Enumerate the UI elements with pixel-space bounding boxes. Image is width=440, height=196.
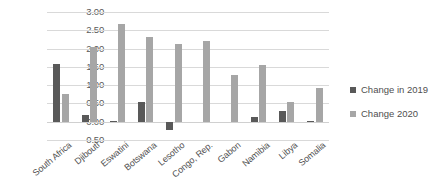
x-axis-category-label: South Africa <box>31 140 74 178</box>
bar <box>118 24 125 122</box>
legend-item-label: Change in 2019 <box>361 84 428 95</box>
bar-chart: -0.500.000.501.001.502.002.503.00 South … <box>0 0 440 196</box>
bar <box>146 37 153 122</box>
bar <box>307 121 314 122</box>
bar-group <box>47 12 75 140</box>
bar <box>251 117 258 122</box>
legend-item-label: Change 2020 <box>361 108 418 119</box>
bar <box>90 47 97 121</box>
legend-item[interactable]: Change in 2019 <box>350 84 428 95</box>
x-axis-category-label: Gabon <box>216 140 243 165</box>
bar <box>82 115 89 121</box>
bar-group <box>301 12 329 140</box>
bar <box>138 102 145 121</box>
legend-color-swatch <box>350 87 356 93</box>
x-axis-category-labels: South AfricaDjiboutiEswatiniBotswanaLeso… <box>47 140 329 196</box>
bar <box>259 65 266 122</box>
bar <box>175 44 182 122</box>
x-axis-category-label: Libya <box>277 140 300 161</box>
bar <box>53 64 60 121</box>
bar <box>62 94 69 121</box>
bar <box>316 88 323 122</box>
bar <box>203 41 210 122</box>
legend-item[interactable]: Change 2020 <box>350 108 428 119</box>
bar <box>279 111 286 121</box>
chart-legend: Change in 2019Change 2020 <box>350 84 428 132</box>
legend-color-swatch <box>350 111 356 117</box>
bar-group <box>244 12 272 140</box>
